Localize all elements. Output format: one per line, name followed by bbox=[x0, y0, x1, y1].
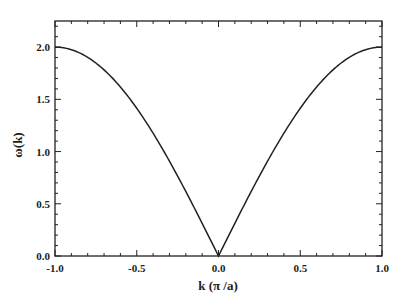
dispersion-chart: -1.0-0.50.00.51.0 0.00.51.01.52.0 k (π /… bbox=[0, 0, 412, 297]
y-tick-label: 2.0 bbox=[36, 41, 50, 53]
y-axis-label: ω(k) bbox=[10, 132, 25, 157]
y-tick-label: 0.0 bbox=[36, 250, 50, 262]
dispersion-curve bbox=[55, 47, 382, 256]
y-tick-label: 1.5 bbox=[36, 93, 50, 105]
axis-ticks bbox=[55, 21, 382, 256]
y-tick-labels: 0.00.51.01.52.0 bbox=[36, 41, 50, 262]
x-axis-label: k (π /a) bbox=[198, 278, 238, 293]
x-tick-labels: -1.0-0.50.00.51.0 bbox=[46, 262, 389, 274]
x-tick-label: 1.0 bbox=[375, 262, 389, 274]
x-tick-label: 0.5 bbox=[293, 262, 307, 274]
x-tick-label: 0.0 bbox=[212, 262, 226, 274]
plot-frame bbox=[55, 21, 382, 256]
y-tick-label: 1.0 bbox=[36, 146, 50, 158]
y-tick-label: 0.5 bbox=[36, 198, 50, 210]
x-tick-label: -1.0 bbox=[46, 262, 64, 274]
x-tick-label: -0.5 bbox=[128, 262, 146, 274]
